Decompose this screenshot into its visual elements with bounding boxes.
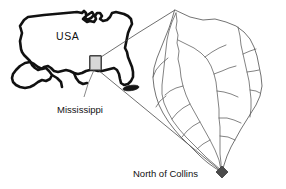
stream-main-stem [176, 13, 221, 170]
stream-tributary-center-3 [197, 140, 210, 149]
stream-tributary-east-4 [219, 118, 241, 123]
stream-tributary-east-2 [214, 66, 236, 74]
stream-tributary-far-east-1 [243, 49, 256, 54]
stream-tributary-center-2 [182, 122, 200, 137]
usa-country-outline [20, 11, 133, 85]
stream-tributary-center-1 [172, 104, 190, 119]
stream-tributary-east-5 [220, 136, 235, 140]
stream-tributary-far-east-2 [247, 70, 259, 72]
usa-label: USA [56, 30, 79, 42]
outlet-station-marker [216, 166, 228, 178]
map-canvas: USA Mississippi North of Collins [0, 0, 286, 189]
zoom-ray-top [101, 10, 175, 57]
watershed-boundary-outline [153, 10, 262, 172]
zoom-ray-bottom [98, 70, 222, 172]
location-map-figure: USA Mississippi North of Collins [0, 0, 286, 189]
stream-tributaries [153, 13, 260, 170]
north-of-collins-label: North of Collins [133, 168, 198, 179]
study-area-box [90, 56, 101, 70]
usa-peninsula-detail [52, 75, 62, 87]
mississippi-label: Mississippi [57, 104, 103, 115]
stream-tributary-east-1 [205, 45, 226, 57]
stream-tributary-west-1 [153, 58, 168, 77]
stream-tributary-east-3 [217, 91, 238, 97]
stream-tributary-far-east-3 [250, 90, 260, 93]
stream-tributary-center-4 [165, 86, 183, 95]
